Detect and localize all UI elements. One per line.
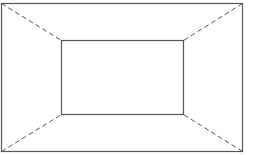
connector-bottom-left	[2, 115, 62, 152]
connector-bottom-right	[184, 115, 243, 152]
perspective-diagram	[0, 0, 254, 155]
connector-top-left	[2, 4, 62, 41]
connector-top-right	[184, 4, 243, 41]
inner-rectangle	[62, 41, 184, 115]
